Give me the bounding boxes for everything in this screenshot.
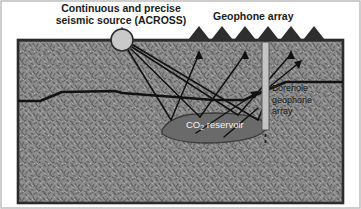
borehole-geophone-array-label: Borehole geophone array — [272, 83, 332, 118]
geophone-triangle — [257, 26, 279, 40]
seismic-monitoring-diagram: Continuous and precise seismic source (A… — [0, 0, 361, 209]
reservoir-label-suffix: reservoir — [204, 119, 244, 130]
borehole-label-line1: Borehole — [272, 83, 308, 93]
geophone-triangle — [188, 26, 210, 40]
source-label-line2: seismic source (ACROSS) — [56, 14, 187, 26]
across-source-label: Continuous and precise seismic source (A… — [51, 2, 191, 27]
co2-reservoir-label: CO2 reservoir — [186, 119, 244, 130]
borehole-label-line2: geophone — [272, 95, 312, 105]
geophone-triangle — [280, 26, 302, 40]
across-source-circle — [111, 29, 133, 51]
source-label-line1: Continuous and precise — [61, 2, 181, 14]
geophone-triangle — [211, 26, 233, 40]
geophone-array-label: Geophone array — [213, 10, 294, 22]
reservoir-label-prefix: CO — [186, 119, 200, 130]
borehole-label-line3: array — [272, 106, 293, 116]
surface-geophone-array — [188, 26, 325, 40]
reservoir-label-subscript: 2 — [200, 124, 204, 131]
geophone-triangle — [303, 26, 325, 40]
geophone-triangle — [234, 26, 256, 40]
borehole-geophone-column — [262, 42, 269, 130]
